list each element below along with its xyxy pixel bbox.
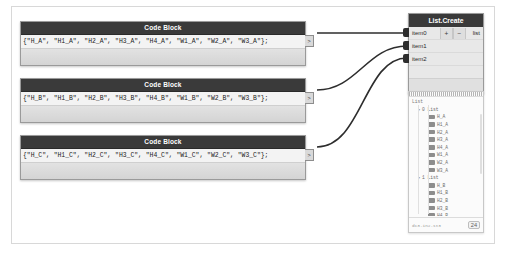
tree-item[interactable]: H2_A	[411, 128, 483, 136]
tree-item[interactable]: H3_A	[411, 136, 483, 144]
wire-codeblock-b-to-item1	[317, 46, 407, 90]
tree-group-label: 1 List	[422, 175, 439, 180]
tree-root-label: List	[412, 99, 423, 104]
tree-row-root[interactable]: List	[411, 98, 483, 106]
index-chip	[428, 130, 435, 135]
index-chip	[428, 160, 435, 165]
list-create-node[interactable]: List.Create item0 + − list item1 item2	[408, 13, 484, 94]
code-block-a-title: Code Block	[21, 22, 305, 35]
tree-item-label: H1_B	[437, 190, 448, 195]
tree-guide-line	[418, 105, 419, 214]
tree-item-label: H2_A	[437, 130, 448, 135]
graph-canvas[interactable]: Code Block {"H_A", "H1_A", "H2_A", "H3_A…	[12, 7, 494, 243]
code-block-c-title: Code Block	[21, 136, 305, 149]
list-create-spacer	[409, 66, 483, 78]
input-label-item2: item2	[409, 56, 440, 62]
index-chip	[428, 168, 435, 173]
wire-codeblock-c-to-item2	[317, 58, 407, 147]
index-chip	[428, 122, 435, 127]
output-label-list: list	[466, 30, 483, 36]
tree-item[interactable]: W1_A	[411, 151, 483, 159]
remove-port-button[interactable]: −	[453, 28, 466, 39]
code-block-b-title: Code Block	[21, 79, 305, 92]
tree-item[interactable]: W3_A	[411, 166, 483, 174]
code-block-c-output-port[interactable]: >	[305, 149, 314, 161]
tree-item-label: H3_A	[437, 137, 448, 142]
index-chip	[428, 115, 435, 120]
tree-item-label: W2_A	[437, 160, 448, 165]
tree-item-label: W1_A	[437, 152, 448, 157]
tree-guide-line	[428, 105, 429, 214]
index-chip	[428, 198, 435, 203]
application-frame: Code Block {"H_A", "H1_A", "H2_A", "H3_A…	[11, 6, 495, 244]
tree-item[interactable]: H4_A	[411, 144, 483, 152]
code-block-c-code[interactable]: {"H_C", "H1_C", "H2_C", "H3_C", "H4_C", …	[21, 149, 305, 163]
index-chip	[428, 206, 435, 211]
tree-item-label: H4_A	[437, 145, 448, 150]
preview-footer: dc3.in2.st3 24	[409, 217, 483, 232]
add-port-button[interactable]: +	[440, 28, 453, 39]
tree-item-label: W3_A	[437, 168, 448, 173]
tree-item-label: H_B	[437, 183, 445, 188]
list-create-title: List.Create	[409, 14, 483, 27]
tree-item[interactable]: H1_B	[411, 189, 483, 197]
code-block-a-output-port[interactable]: >	[305, 35, 314, 47]
preview-tree[interactable]: List ▾ 0 List H_A H1_A H2_A H3_A H4_A W1…	[409, 97, 483, 216]
list-create-row-item0[interactable]: item0 + − list	[409, 27, 483, 40]
code-block-c-body	[21, 163, 305, 179]
index-chip	[428, 213, 435, 216]
tree-item[interactable]: H_B	[411, 182, 483, 190]
tree-item[interactable]: W2_A	[411, 159, 483, 167]
input-port-item0[interactable]	[403, 28, 409, 37]
tree-item-label: H_A	[437, 114, 445, 119]
tree-item-label: H4_B	[437, 213, 448, 216]
tree-item-label: H1_A	[437, 122, 448, 127]
input-port-item2[interactable]	[403, 54, 409, 63]
tree-group-header[interactable]: ▾ 1 List	[411, 174, 483, 182]
list-create-row-item1[interactable]: item1	[409, 40, 483, 53]
preview-count-badge[interactable]: 24	[468, 221, 480, 229]
preview-status-text: dc3.in2.st3	[412, 223, 441, 228]
code-block-node-c[interactable]: Code Block {"H_C", "H1_C", "H2_C", "H3_C…	[20, 135, 306, 180]
tree-item[interactable]: H4_B	[411, 212, 483, 216]
tree-item[interactable]: H1_A	[411, 121, 483, 129]
input-label-item1: item1	[409, 43, 440, 49]
code-block-b-body	[21, 106, 305, 122]
tree-item[interactable]: H2_B	[411, 197, 483, 205]
code-block-b-code[interactable]: {"H_B", "H1_B", "H2_B", "H3_B", "H4_B", …	[21, 92, 305, 106]
code-block-a-code[interactable]: {"H_A", "H1_A", "H2_A", "H3_A", "H4_A", …	[21, 35, 305, 49]
index-chip	[428, 153, 435, 158]
tree-item[interactable]: H_A	[411, 113, 483, 121]
code-block-node-a[interactable]: Code Block {"H_A", "H1_A", "H2_A", "H3_A…	[20, 21, 306, 66]
tree-group-header[interactable]: ▾ 0 List	[411, 106, 483, 114]
input-port-item1[interactable]	[403, 41, 409, 50]
tree-item[interactable]: H3_B	[411, 204, 483, 212]
tree-item-label: H3_B	[437, 206, 448, 211]
index-chip	[428, 191, 435, 196]
index-chip	[428, 183, 435, 188]
preview-panel[interactable]: List ▾ 0 List H_A H1_A H2_A H3_A H4_A W1…	[408, 91, 484, 233]
tree-group-label: 0 List	[422, 107, 439, 112]
code-block-a-body	[21, 49, 305, 65]
index-chip	[428, 145, 435, 150]
code-block-node-b[interactable]: Code Block {"H_B", "H1_B", "H2_B", "H3_B…	[20, 78, 306, 123]
preview-scrollbar[interactable]	[480, 114, 482, 174]
index-chip	[428, 137, 435, 142]
list-create-row-item2[interactable]: item2	[409, 53, 483, 66]
input-label-item0: item0	[409, 30, 440, 36]
tree-item-label: H2_B	[437, 198, 448, 203]
code-block-b-output-port[interactable]: >	[305, 92, 314, 104]
